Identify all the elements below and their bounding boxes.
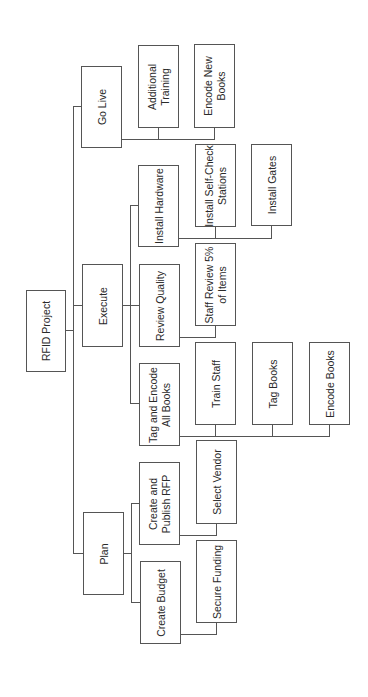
connector [73,553,83,554]
node-label: Install Hardware [152,168,165,244]
node-create-publish-rfp: Create and Publish RFP [139,462,180,545]
node-label: Additional Training [146,63,172,109]
connector [158,127,159,139]
node-label: Tag and Encode All Books [147,367,173,443]
node-label: RFID Project [40,301,53,361]
node-train-staff: Train Staff [195,342,236,425]
connector [73,106,74,554]
node-go-live: Go Live [81,66,122,148]
node-rfid-project: RFID Project [26,290,66,372]
connector [179,337,216,338]
node-tag-books: Tag Books [252,342,293,425]
node-install-self-check: Install Self-Check Stations [195,144,236,227]
connector [216,523,217,535]
node-label: Encode Books [323,350,336,418]
connector [121,139,215,140]
node-encode-books: Encode Books [309,342,350,425]
connector [271,225,272,238]
node-tag-and-encode: Tag and Encode All Books [139,363,180,446]
node-label: Execute [96,287,109,325]
node-label: Review Quality [153,270,166,340]
node-label: Plan [97,543,110,564]
connector [180,634,217,635]
connector [272,424,273,436]
node-label: Staff Review 5% of Items [203,246,229,323]
node-execute: Execute [82,264,123,347]
node-staff-review: Staff Review 5% of Items [195,243,236,326]
connector [215,226,216,238]
node-encode-new-books: Encode New Books [194,44,235,128]
connector [215,325,216,337]
connector [131,602,140,603]
node-create-budget: Create Budget [140,561,181,644]
connector [329,424,330,436]
connector [131,503,132,603]
node-label: Secure Funding [210,544,223,618]
connector [216,622,217,634]
node-secure-funding: Secure Funding [196,540,237,623]
node-select-vendor: Select Vendor [196,440,237,524]
node-label: Create and Publish RFP [147,474,173,532]
node-label: Select Vendor [210,449,223,514]
node-label: Encode New Books [202,56,228,116]
connector [179,436,330,437]
node-label: Tag Books [266,359,279,408]
node-label: Create Budget [154,569,167,637]
node-label: Install Self-Check Stations [203,145,229,227]
connector [215,424,216,436]
node-plan: Plan [83,512,124,595]
node-label: Install Gates [265,156,278,214]
connector [73,305,82,306]
connector [178,238,272,239]
connector [130,305,139,306]
node-label: Train Staff [209,360,222,408]
node-install-hardware: Install Hardware [138,165,179,247]
node-install-gates: Install Gates [251,144,292,226]
node-label: Go Live [95,89,108,125]
connector [130,403,139,404]
connector [179,535,217,536]
node-additional-training: Additional Training [138,45,179,128]
connector [214,127,215,139]
node-review-quality: Review Quality [139,264,180,347]
